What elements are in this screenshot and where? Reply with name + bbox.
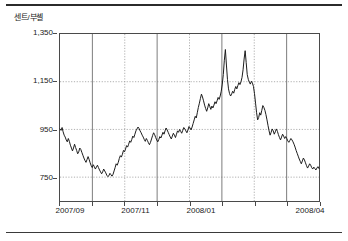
y-axis-tick-labels: 7509501,1501,350 <box>7 33 53 202</box>
y-tick-label: 1,350 <box>7 29 53 37</box>
x-tick-mark <box>222 202 223 206</box>
x-tick-mark <box>287 202 288 206</box>
figure-top-rule <box>6 4 342 6</box>
x-tick-mark <box>59 202 60 206</box>
y-tick-mark <box>53 33 57 34</box>
y-tick-mark <box>53 81 57 82</box>
x-tick-mark <box>124 202 125 206</box>
chart-figure: 센트/부셸 7509501,1501,350 2007/092007/11200… <box>0 0 348 241</box>
y-tick-mark <box>53 178 57 179</box>
x-tick-mark <box>190 202 191 206</box>
x-tick-mark <box>157 202 158 206</box>
x-tick-mark <box>255 202 256 206</box>
x-axis-tick-labels: 2007/092007/112008/012008/04 <box>59 206 320 220</box>
y-axis-unit-label: 센트/부셸 <box>14 13 43 23</box>
y-tick-label: 950 <box>7 126 53 134</box>
x-tick-mark <box>320 202 321 206</box>
y-tick-label: 1,150 <box>7 77 53 85</box>
plot-area <box>59 33 320 202</box>
x-tick-label: 2007/09 <box>55 206 84 216</box>
x-tick-label: 2008/01 <box>187 206 216 216</box>
price-line-series <box>60 34 319 201</box>
x-tick-label: 2007/11 <box>121 206 149 216</box>
x-tick-mark <box>92 202 93 206</box>
figure-bottom-rule <box>6 232 342 233</box>
y-tick-mark <box>53 130 57 131</box>
x-tick-label: 2008/04 <box>296 206 325 216</box>
y-tick-label: 750 <box>7 174 53 182</box>
